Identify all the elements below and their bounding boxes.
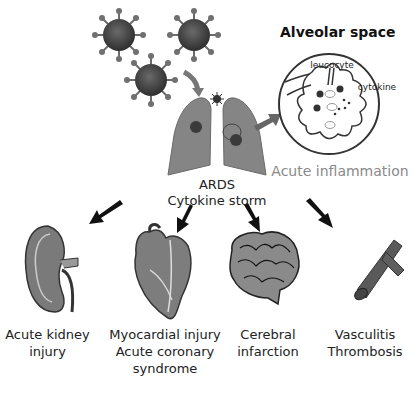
alveolar-space-title: Alveolar space <box>280 24 380 41</box>
acute-inflammation-label: Acute inflammation <box>270 163 410 180</box>
ards-label: ARDS <box>177 176 257 193</box>
organ-label-kidney: Acute kidney injury <box>0 326 95 360</box>
leucocyte-label: leucocyte <box>310 57 354 74</box>
organ-label-heart: Myocardial injury Acute coronary syndrom… <box>105 326 225 377</box>
cytokine-storm-label: Cytokine storm <box>157 192 277 209</box>
brain-icon <box>230 232 299 304</box>
lungs-icon <box>168 98 266 175</box>
small-virus-icon <box>210 92 224 106</box>
arrow-kidney-icon <box>89 200 123 224</box>
organ-label-line: infarction <box>233 343 303 360</box>
blood-vessel-icon <box>352 240 404 302</box>
arrow-right-icon <box>254 114 281 131</box>
virus-icon <box>92 8 146 62</box>
kidney-icon <box>26 226 78 312</box>
organ-label-line: Cerebral <box>233 326 303 343</box>
organ-label-line: Vasculitis <box>320 326 410 343</box>
virus-icon <box>167 8 221 62</box>
organ-label-brain: Cerebral infarction <box>233 326 303 360</box>
curved-arrow-icon <box>184 72 204 97</box>
organ-label-line: Myocardial injury <box>105 326 225 343</box>
organ-label-line: syndrome <box>105 360 225 377</box>
cytokine-label: cytokine <box>357 79 397 96</box>
organ-label-line: Thrombosis <box>320 343 410 360</box>
arrow-vessel-icon <box>306 198 333 228</box>
organ-label-line: Acute kidney <box>0 326 95 343</box>
organ-label-line: injury <box>0 343 95 360</box>
organ-label-line: Acute coronary <box>105 343 225 360</box>
virus-icon <box>124 53 178 107</box>
heart-icon <box>135 225 191 319</box>
organ-label-vessel: Vasculitis Thrombosis <box>320 326 410 360</box>
